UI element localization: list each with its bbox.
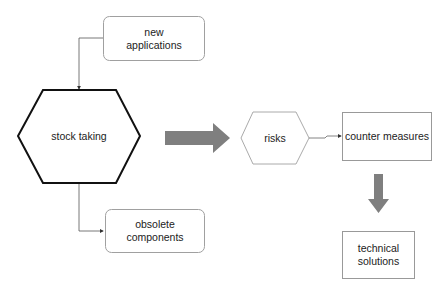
down-arrow [368, 174, 389, 213]
big-right-arrow [165, 123, 230, 153]
connector-risks-to-counter [309, 136, 341, 138]
stock-taking-label: stock taking [20, 90, 138, 182]
connector-stock-to-obsolete [79, 184, 103, 231]
risks-label: risks [243, 112, 307, 164]
new-applications-label: new applications [104, 17, 204, 60]
counter-measures-label: counter measures [343, 113, 431, 160]
technical-solutions-label: technical solutions [343, 232, 414, 278]
connector-new-to-stock [79, 38, 103, 89]
obsolete-components-label: obsolete components [106, 210, 204, 252]
